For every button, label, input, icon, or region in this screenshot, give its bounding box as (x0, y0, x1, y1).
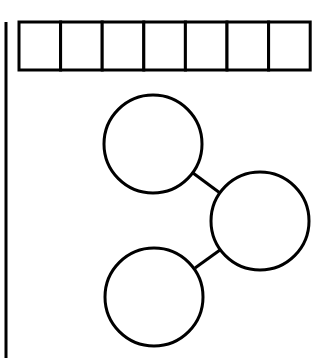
number-bond-diagram (0, 0, 329, 358)
answer-box[interactable] (185, 22, 227, 70)
connector-line (193, 173, 220, 193)
connector-line (195, 250, 220, 268)
bond-circles (104, 95, 309, 346)
answer-box[interactable] (61, 22, 103, 70)
answer-box-row (19, 22, 310, 70)
answer-box[interactable] (19, 22, 61, 70)
answer-box[interactable] (269, 22, 311, 70)
circle-bottom-part[interactable] (105, 248, 203, 346)
answer-box[interactable] (227, 22, 269, 70)
answer-box[interactable] (102, 22, 144, 70)
circle-whole[interactable] (211, 172, 309, 270)
circle-top-part[interactable] (104, 95, 202, 193)
answer-box[interactable] (144, 22, 186, 70)
